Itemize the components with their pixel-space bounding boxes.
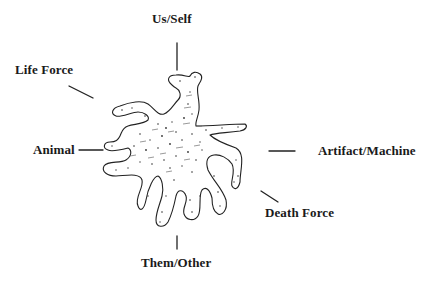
label-animal: Animal: [33, 143, 75, 157]
connector-death-force: [261, 191, 278, 202]
label-artifact-machine: Artifact/Machine: [318, 144, 416, 158]
label-us-self: Us/Self: [152, 12, 192, 26]
label-death-force: Death Force: [265, 206, 334, 220]
label-life-force: Life Force: [15, 63, 73, 77]
concept-diagram: Us/Self Life Force Animal Artifact/Machi…: [0, 0, 427, 286]
label-them-other: Them/Other: [141, 256, 211, 270]
stipple-dashes: [130, 95, 202, 172]
amoeba-blob: [103, 72, 246, 226]
connector-life-force: [69, 86, 93, 98]
